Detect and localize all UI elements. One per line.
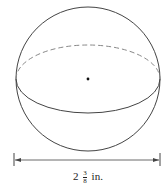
- dimension-unit: in.: [92, 170, 103, 182]
- arrowhead-left: [15, 158, 21, 162]
- sphere-diagram: [0, 0, 166, 191]
- equator-hidden-arc: [16, 45, 160, 79]
- center-point: [87, 78, 90, 81]
- dimension-whole: 2: [73, 170, 79, 182]
- diameter-label: 2 3 8 in.: [0, 170, 166, 185]
- fraction-denominator: 8: [83, 178, 87, 185]
- equator-visible-arc: [16, 79, 160, 113]
- arrowhead-right: [153, 158, 159, 162]
- dimension-fraction: 3 8: [83, 170, 87, 185]
